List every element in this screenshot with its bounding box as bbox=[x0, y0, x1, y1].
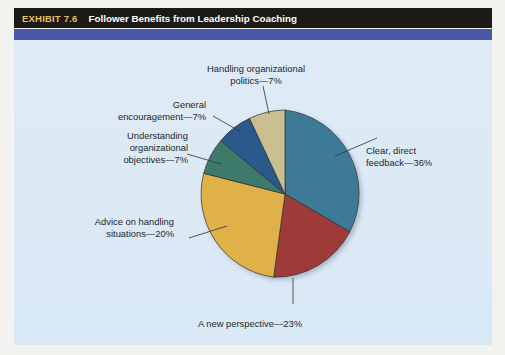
header-accent-band bbox=[14, 29, 492, 40]
label-advice-on-handling-situations: Advice on handling situations—20% bbox=[26, 216, 174, 240]
pie-slices bbox=[201, 110, 359, 277]
exhibit-title: Follower Benefits from Leadership Coachi… bbox=[89, 13, 298, 24]
pie-chart bbox=[199, 108, 371, 280]
label-handling-organizational-politics: Handling organizational politics—7% bbox=[177, 63, 335, 87]
exhibit-number-badge: EXHIBIT 7.6 bbox=[22, 13, 78, 24]
exhibit-header: EXHIBIT 7.6 Follower Benefits from Leade… bbox=[14, 8, 492, 28]
pie-chart-svg bbox=[199, 108, 371, 280]
label-understanding-organizational-objectives: Understanding organizational objectives—… bbox=[56, 130, 188, 166]
label-clear-direct-feedback: Clear, direct feedback—36% bbox=[366, 145, 482, 169]
exhibit-figure: EXHIBIT 7.6 Follower Benefits from Leade… bbox=[0, 0, 505, 355]
label-a-new-perspective: A new perspective—23% bbox=[160, 318, 340, 330]
leader-line-general bbox=[213, 116, 241, 132]
chart-panel: Handling organizational politics—7% Gene… bbox=[14, 40, 492, 345]
leader-line-politics bbox=[263, 86, 269, 114]
label-general-encouragement: General encouragement—7% bbox=[58, 99, 206, 123]
